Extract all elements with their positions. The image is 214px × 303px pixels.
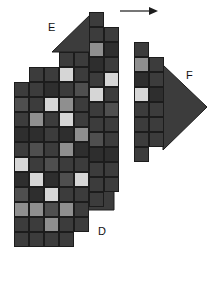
- block-cell: [14, 157, 29, 172]
- block-cell: [149, 117, 164, 132]
- label-e: E: [48, 22, 55, 33]
- block-cell: [134, 42, 149, 57]
- block-cell: [59, 187, 74, 202]
- block-cell: [44, 82, 59, 97]
- block-cell: [149, 72, 164, 87]
- block-cell: [29, 232, 44, 247]
- block-cell: [29, 187, 44, 202]
- block-cell: [14, 97, 29, 112]
- block-cell: [104, 162, 119, 177]
- block-cell: [74, 172, 89, 187]
- block-cell: [59, 97, 74, 112]
- direction-arrow: [120, 5, 158, 17]
- block-cell: [29, 67, 44, 82]
- block-cell: [74, 97, 89, 112]
- block-cell: [29, 202, 44, 217]
- block-cell: [74, 112, 89, 127]
- block-cell: [89, 102, 104, 117]
- block-cell: [59, 202, 74, 217]
- block-cell: [134, 87, 149, 102]
- block-cell: [14, 127, 29, 142]
- block-cell: [59, 232, 74, 247]
- block-cell: [44, 97, 59, 112]
- block-cell: [74, 142, 89, 157]
- block-cell: [44, 142, 59, 157]
- block-cell: [44, 187, 59, 202]
- block-cell: [89, 42, 104, 57]
- block-cell: [104, 147, 119, 162]
- block-cell: [44, 202, 59, 217]
- arrow-head-icon: [149, 7, 158, 15]
- block-cell: [14, 217, 29, 232]
- block-cell: [104, 102, 119, 117]
- block-cell: [89, 162, 104, 177]
- block-cell: [29, 97, 44, 112]
- block-cell: [29, 157, 44, 172]
- block-cell: [74, 157, 89, 172]
- block-cell: [44, 172, 59, 187]
- block-cell: [44, 112, 59, 127]
- block-cell: [44, 232, 59, 247]
- block-cell: [44, 127, 59, 142]
- block-cell: [59, 112, 74, 127]
- block-cell: [44, 157, 59, 172]
- wedge-e-top: [52, 12, 93, 52]
- block-cell: [74, 127, 89, 142]
- block-cell: [74, 202, 89, 217]
- block-cell: [104, 57, 119, 72]
- block-cell: [29, 142, 44, 157]
- block-cell: [29, 82, 44, 97]
- block-cell: [44, 217, 59, 232]
- block-cell: [44, 67, 59, 82]
- block-cell: [14, 142, 29, 157]
- block-cell: [134, 72, 149, 87]
- block-cell: [14, 112, 29, 127]
- block-cell: [134, 102, 149, 117]
- block-cell: [149, 102, 164, 117]
- block-cell: [14, 82, 29, 97]
- block-cell: [29, 217, 44, 232]
- block-cell: [59, 82, 74, 97]
- block-cell: [14, 172, 29, 187]
- block-cell: [89, 87, 104, 102]
- block-cell: [59, 67, 74, 82]
- block-cell: [134, 132, 149, 147]
- block-cell: [29, 112, 44, 127]
- block-cell: [104, 132, 119, 147]
- block-cell: [104, 87, 119, 102]
- block-cell: [14, 232, 29, 247]
- block-cell: [89, 72, 104, 87]
- block-cell: [134, 57, 149, 72]
- block-cell: [134, 117, 149, 132]
- block-cell: [59, 52, 74, 67]
- block-cell: [29, 172, 44, 187]
- block-cell: [149, 132, 164, 147]
- block-cell: [89, 57, 104, 72]
- block-cell: [89, 27, 104, 42]
- block-cell: [104, 72, 119, 87]
- wedge-f-right: [163, 65, 207, 150]
- block-cell: [29, 127, 44, 142]
- block-cell: [89, 132, 104, 147]
- block-cell: [89, 12, 104, 27]
- block-cell: [104, 27, 119, 42]
- block-cell: [14, 187, 29, 202]
- block-cell: [59, 172, 74, 187]
- block-cell: [134, 147, 149, 162]
- block-cell: [89, 192, 104, 207]
- block-cell: [74, 82, 89, 97]
- block-cell: [104, 117, 119, 132]
- block-cell: [104, 42, 119, 57]
- block-cell: [59, 217, 74, 232]
- block-cell: [74, 187, 89, 202]
- block-cell: [149, 57, 164, 72]
- block-cell: [74, 217, 89, 232]
- block-cell: [14, 202, 29, 217]
- block-cell: [74, 67, 89, 82]
- label-f: F: [186, 70, 193, 81]
- block-cell: [59, 127, 74, 142]
- block-cell: [59, 142, 74, 157]
- block-cell: [59, 157, 74, 172]
- block-cell: [104, 177, 119, 192]
- block-cell: [74, 52, 89, 67]
